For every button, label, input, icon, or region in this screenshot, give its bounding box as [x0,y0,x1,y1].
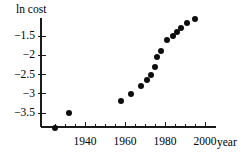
y-axis-tick-label: −3.5 [0,107,35,119]
data-point [138,83,144,89]
scatter-chart-figure: ln cost year 1940196019802000−1.5−2−2.5−… [0,0,246,165]
y-axis-tick-label: −2 [0,49,35,61]
data-point [128,91,134,97]
x-axis-tick-label: 1980 [145,136,185,148]
data-point [66,110,72,116]
data-point [184,20,190,26]
y-axis-tick-label: −3 [0,88,35,100]
data-point [152,64,158,70]
data-point [164,37,170,43]
y-axis-tick-label: −2.5 [0,69,35,81]
y-axis-tick-label: −1.5 [0,30,35,42]
x-axis-tick-label: 2000 [185,136,225,148]
data-point [192,16,198,22]
x-axis-tick-label: 1940 [65,136,105,148]
x-axis-tick-label: 1960 [105,136,145,148]
plot-area: ln cost year 1940196019802000−1.5−2−2.5−… [0,0,246,165]
y-axis-title: ln cost [16,4,46,16]
data-point [148,72,154,78]
